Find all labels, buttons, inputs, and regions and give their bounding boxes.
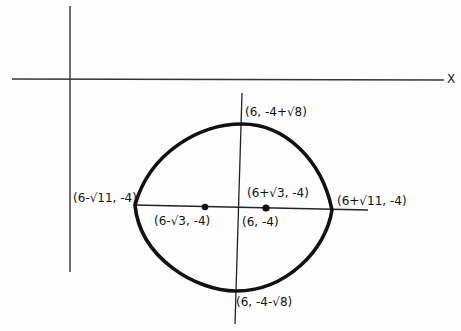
label-right-focus: (6+√3, -4) [247, 187, 309, 199]
label-bottom-vertex: (6, -4-√8) [236, 296, 292, 308]
diagram-canvas: X (6, -4+√8) (6-√11, -4) (6+√3, -4) (6+√… [0, 0, 461, 331]
left-focus-dot [202, 204, 209, 211]
label-left-focus: (6-√3, -4) [154, 215, 210, 227]
label-top-vertex: (6, -4+√8) [245, 106, 307, 118]
label-right-vertex: (6+√11, -4) [337, 195, 407, 207]
diagram-svg [0, 0, 461, 331]
right-focus-dot [262, 204, 269, 211]
x-axis-label: X [447, 72, 455, 86]
x-axis [12, 79, 444, 80]
label-center: (6, -4) [242, 216, 279, 228]
label-left-vertex: (6-√11, -4) [73, 192, 137, 204]
